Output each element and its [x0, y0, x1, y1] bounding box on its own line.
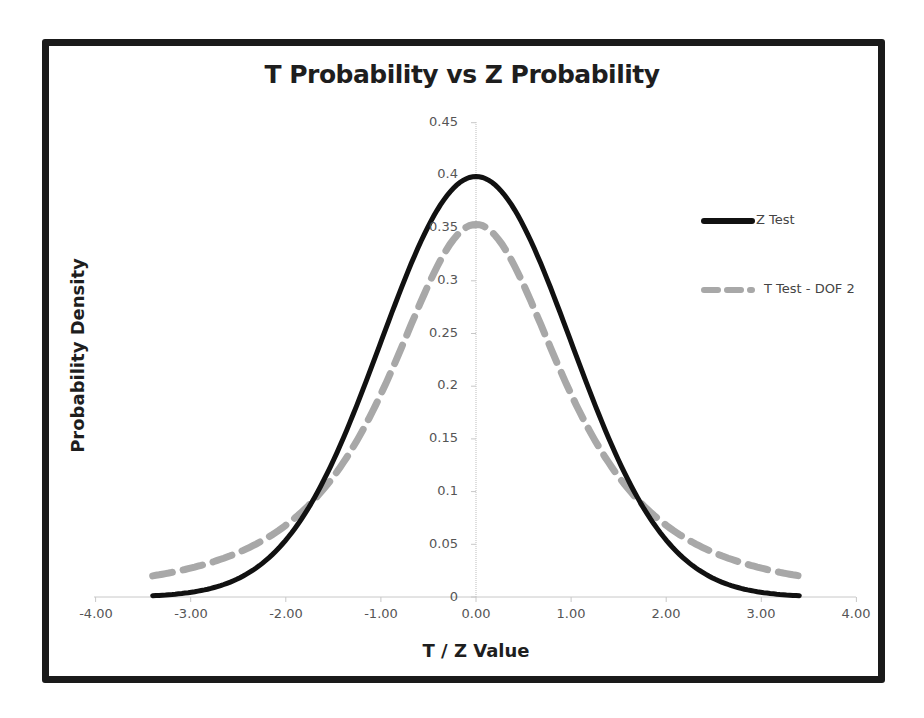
x-tick-label: 4.00 — [826, 606, 886, 621]
x-tick-label: 2.00 — [636, 606, 696, 621]
y-tick-label: 0.35 — [398, 219, 458, 234]
legend-t-label: T Test - DOF 2 — [764, 281, 855, 296]
y-tick-label: 0.1 — [398, 483, 458, 498]
y-tick-label: 0.4 — [398, 166, 458, 181]
y-tick-label: 0.2 — [398, 377, 458, 392]
y-tick-label: 0.15 — [398, 430, 458, 445]
x-tick-label: 0.00 — [446, 606, 506, 621]
y-tick-marks — [471, 123, 476, 597]
x-tick-label: -2.00 — [256, 606, 316, 621]
y-tick-label: 0.05 — [398, 536, 458, 551]
x-tick-label: -1.00 — [351, 606, 411, 621]
y-tick-label: 0.45 — [398, 114, 458, 129]
x-tick-label: -4.00 — [66, 606, 126, 621]
x-tick-label: 1.00 — [541, 606, 601, 621]
y-tick-label: 0.25 — [398, 325, 458, 340]
x-axis-label: T / Z Value — [376, 640, 576, 661]
y-tick-label: 0 — [398, 589, 458, 604]
x-tick-label: -3.00 — [161, 606, 221, 621]
y-tick-label: 0.3 — [398, 272, 458, 287]
x-tick-marks — [96, 597, 857, 602]
y-axis-label: Probability Density — [67, 251, 88, 461]
x-tick-label: 3.00 — [731, 606, 791, 621]
legend-z-label: Z Test — [756, 212, 795, 227]
